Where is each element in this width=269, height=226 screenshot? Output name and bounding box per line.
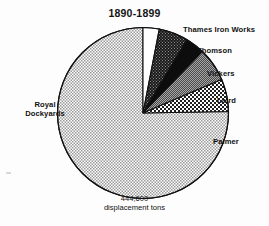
slice-label-palmer: Palmer [213, 138, 239, 147]
caption-total-units: displacement tons [0, 203, 269, 212]
scan-artifact [6, 172, 11, 174]
slice-label-thomson: Thomson [197, 47, 232, 56]
slice-label-vickers: Vickers [207, 70, 235, 79]
caption-total-value: 444,600 [0, 194, 269, 203]
slice-label-royal-line2: Dockyards [25, 109, 65, 118]
pie-chart-figure: 1890-1899 [0, 0, 269, 226]
slice-label-royal-dockyards: Royal Dockyards [18, 101, 72, 118]
chart-caption: 444,600 displacement tons [0, 194, 269, 212]
slice-label-thames-iron-works: Thames Iron Works [183, 26, 255, 35]
slice-label-laird: Laird [217, 97, 236, 106]
